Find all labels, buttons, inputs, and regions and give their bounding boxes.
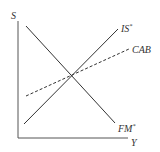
fm-star-label: FM* — [117, 123, 135, 134]
y-axis-label: S — [11, 10, 16, 21]
is-fm-diagram: S Y IS* CAB FM* — [0, 0, 160, 152]
cab-curve — [26, 49, 129, 96]
is-star-label: IS* — [120, 23, 132, 34]
x-axis-label: Y — [131, 137, 138, 148]
is-star-curve — [24, 29, 118, 124]
cab-label: CAB — [132, 44, 151, 55]
